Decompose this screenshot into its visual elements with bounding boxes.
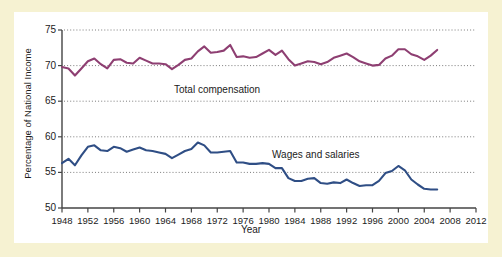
series-line-total-compensation <box>62 45 437 76</box>
x-tick-label: 2008 <box>436 215 464 226</box>
x-tick-label: 1976 <box>229 215 257 226</box>
x-tick-label: 1960 <box>126 215 154 226</box>
x-tick-label: 1996 <box>359 215 387 226</box>
y-tick-label: 55 <box>34 166 56 177</box>
x-tick-label: 1956 <box>100 215 128 226</box>
x-tick-label: 2004 <box>410 215 438 226</box>
y-tick-label: 70 <box>34 60 56 71</box>
plot-area <box>14 12 488 243</box>
tick-marks <box>58 30 476 213</box>
data-series <box>62 45 437 190</box>
x-tick-label: 1988 <box>307 215 335 226</box>
x-tick-label: 1964 <box>152 215 180 226</box>
y-tick-label: 75 <box>34 24 56 35</box>
x-tick-label: 2000 <box>384 215 412 226</box>
series-line-wages-and-salaries <box>62 143 437 190</box>
y-tick-label: 65 <box>34 95 56 106</box>
x-tick-label: 1984 <box>281 215 309 226</box>
y-tick-label: 60 <box>34 131 56 142</box>
x-tick-label: 2012 <box>462 215 490 226</box>
figure-frame: Percentage of National Income Year 50556… <box>0 0 502 257</box>
y-tick-label: 50 <box>34 202 56 213</box>
x-tick-label: 1948 <box>48 215 76 226</box>
x-tick-label: 1980 <box>255 215 283 226</box>
series-label-wages-and-salaries: Wages and salaries <box>272 149 359 160</box>
x-tick-label: 1992 <box>333 215 361 226</box>
x-tick-label: 1952 <box>74 215 102 226</box>
x-tick-label: 1968 <box>177 215 205 226</box>
series-label-total-compensation: Total compensation <box>174 84 260 95</box>
chart-canvas: Percentage of National Income Year 50556… <box>14 12 488 243</box>
x-tick-label: 1972 <box>203 215 231 226</box>
